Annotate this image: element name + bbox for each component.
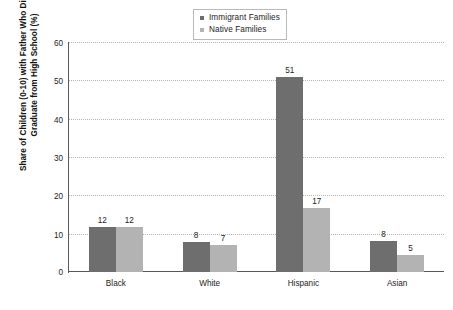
legend-label-native-families: Native Families (209, 24, 266, 36)
y-axis-title-container: Share of Children (0-10) with Father Who… (14, 0, 44, 190)
bar-group-hispanic: 51 17 Hispanic (257, 42, 351, 272)
bar-value-black-native: 12 (125, 216, 134, 225)
bar-value-white-native: 7 (221, 234, 226, 243)
bar-black-immigrant[interactable]: 12 (89, 227, 116, 272)
bar-value-hispanic-immigrant: 51 (285, 66, 294, 75)
bar-value-black-immigrant: 12 (98, 216, 107, 225)
legend-label-immigrant-families: Immigrant Families (209, 12, 280, 24)
bar-hispanic-immigrant[interactable]: 51 (276, 77, 303, 272)
bar-pair: 8 5 (370, 42, 424, 272)
y-tick-label-40: 40 (54, 115, 63, 124)
x-tick-label-white: White (163, 279, 257, 288)
bar-pair: 8 7 (183, 42, 237, 272)
bar-groups: 12 12 Black 8 7 White (69, 42, 444, 272)
bar-asian-native[interactable]: 5 (397, 255, 424, 272)
bar-group-black: 12 12 Black (69, 42, 163, 272)
bar-value-hispanic-native: 17 (312, 197, 321, 206)
bar-white-native[interactable]: 7 (210, 245, 237, 272)
bar-group-white: 8 7 White (163, 42, 257, 272)
chart-legend: Immigrant Families Native Families (193, 9, 287, 40)
bar-group-asian: 8 5 Asian (350, 42, 444, 272)
bar-asian-immigrant[interactable]: 8 (370, 241, 397, 272)
x-tick-label-hispanic: Hispanic (257, 279, 351, 288)
legend-item-native-families[interactable]: Native Families (198, 24, 280, 36)
x-tick-label-asian: Asian (350, 279, 444, 288)
y-tick-label-30: 30 (54, 154, 63, 163)
x-tick-label-black: Black (69, 279, 163, 288)
y-tick-label-0: 0 (58, 268, 63, 277)
bar-value-asian-native: 5 (408, 244, 413, 253)
legend-swatch-immigrant-families (200, 16, 204, 20)
y-tick-label-60: 60 (54, 39, 63, 48)
y-tick-label-50: 50 (54, 77, 63, 86)
bar-hispanic-native[interactable]: 17 (303, 208, 330, 272)
y-tick-label-20: 20 (54, 192, 63, 201)
bar-black-native[interactable]: 12 (116, 227, 143, 272)
bar-chart: Immigrant Families Native Families Share… (0, 0, 453, 310)
bar-value-asian-immigrant: 8 (381, 230, 386, 239)
bar-value-white-immigrant: 8 (194, 231, 199, 240)
y-axis-title: Share of Children (0-10) with Father Who… (18, 0, 40, 190)
legend-swatch-native-families (200, 28, 204, 32)
bar-white-immigrant[interactable]: 8 (183, 242, 210, 272)
plot-area: 60 50 40 30 20 10 0 12 (68, 42, 443, 272)
bar-pair: 12 12 (89, 42, 143, 272)
y-tick-label-10: 10 (54, 230, 63, 239)
legend-item-immigrant-families[interactable]: Immigrant Families (198, 12, 280, 24)
bar-pair: 51 17 (276, 42, 330, 272)
